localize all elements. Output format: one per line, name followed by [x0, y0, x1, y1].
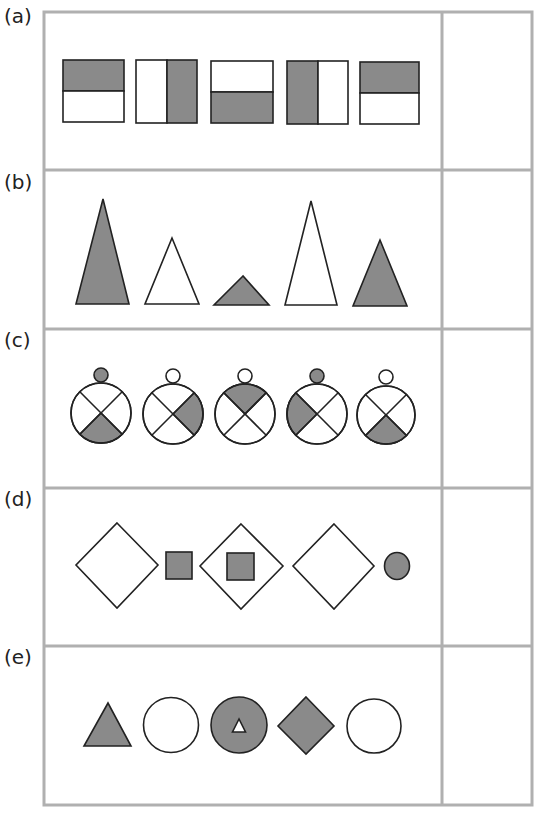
square-bottom-shaded [211, 61, 273, 123]
square-right-shaded [136, 60, 197, 123]
pendant-knob-white-bottom-quadrant [357, 370, 415, 444]
shaded-circle [385, 553, 410, 580]
pendant-knob-shaded-bottom-quadrant [71, 368, 131, 443]
white-diamond [76, 523, 158, 608]
row-d-shapes [76, 523, 410, 609]
triangle-tall-white [285, 201, 337, 305]
square-top-shaded [63, 60, 124, 122]
triangle-short-shaded [214, 276, 269, 305]
triangle-medium-white [145, 238, 199, 304]
shaded-diamond [278, 697, 334, 754]
puzzle-grid-svg [0, 0, 538, 815]
row-b-shapes [76, 199, 407, 306]
answer-cell-b[interactable] [444, 172, 530, 327]
pendant-knob-shaded-left-quadrant [287, 369, 347, 444]
pendant-knob-white-top-quadrant [215, 369, 275, 444]
triangle-tall-shaded [76, 199, 129, 304]
shaded-circle-with-white-triangle [211, 697, 267, 753]
white-circle [347, 699, 401, 753]
answer-cell-e[interactable] [444, 648, 530, 803]
triangle-medium-shaded [353, 240, 407, 306]
square-top-shaded [360, 62, 419, 124]
white-diamond-with-shaded-square [200, 524, 283, 609]
row-c-shapes [71, 368, 415, 444]
white-diamond [293, 524, 374, 609]
pendant-knob-white-right-quadrant [143, 369, 203, 444]
row-e-shapes [84, 697, 401, 754]
answer-cell-a[interactable] [444, 14, 530, 168]
white-circle [144, 698, 199, 753]
square-left-shaded [287, 61, 348, 124]
pattern-puzzle-sheet: (a) (b) (c) (d) (e) [0, 0, 538, 815]
shaded-triangle [84, 703, 131, 746]
answer-cell-c[interactable] [444, 331, 530, 486]
answer-column[interactable] [444, 14, 530, 803]
row-a-shapes [63, 60, 419, 124]
shaded-square [166, 552, 192, 579]
answer-cell-d[interactable] [444, 490, 530, 644]
